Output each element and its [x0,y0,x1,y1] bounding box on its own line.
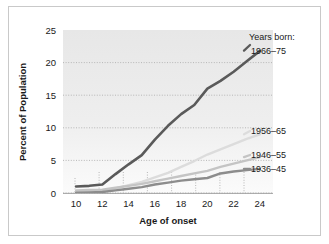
x-tick-label-12: 12 [97,198,108,209]
series-label-1946-55: 1946–55 [251,150,286,160]
series-label-1936-45: 1936–45 [251,164,286,174]
x-tick-label-20: 20 [202,198,213,209]
series-label-1966-75: 1966–75 [251,46,286,56]
x-tick-label-18: 18 [176,198,187,209]
legend-title: Years born: [249,32,295,42]
x-tick-label-16: 16 [150,198,161,209]
x-tick-label-24: 24 [255,198,266,209]
plot-area-background [63,30,273,193]
x-tick-label-22: 22 [228,198,239,209]
chart-figure: 25 20 15 10 5 0 10 12 14 16 18 20 22 24 … [0,0,329,244]
line-chart: 25 20 15 10 5 0 10 12 14 16 18 20 22 24 … [0,0,329,244]
y-tick-label-5: 5 [51,155,56,166]
x-tick-label-10: 10 [71,198,82,209]
y-tick-label-0: 0 [51,188,56,199]
series-label-1956-65: 1956–65 [251,126,286,136]
y-tick-label-10: 10 [45,122,56,133]
y-tick-label-15: 15 [45,90,56,101]
x-tick-label-14: 14 [123,198,134,209]
x-axis-title: Age of onset [139,215,197,226]
y-tick-label-20: 20 [45,57,56,68]
y-tick-label-25: 25 [45,25,56,36]
y-axis-title: Percent of Population [17,63,28,161]
